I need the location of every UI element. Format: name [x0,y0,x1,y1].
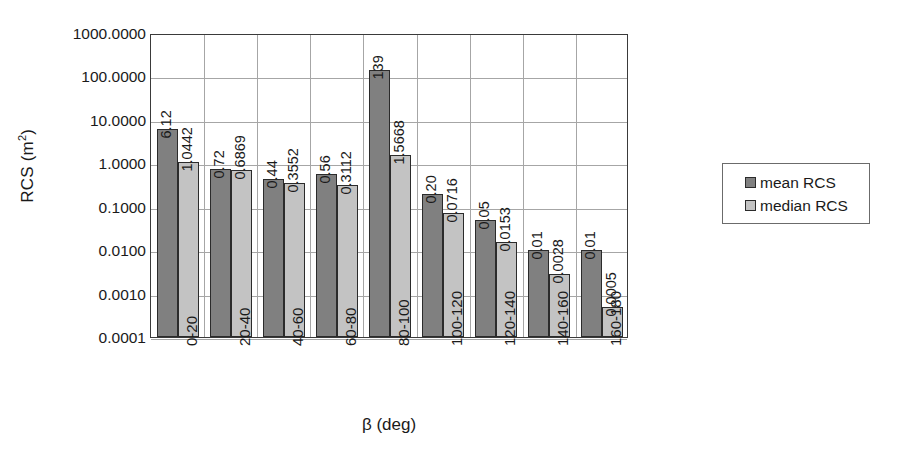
bar-mean [528,250,549,337]
bar-value-label: 0.0153 [498,207,513,251]
x-axis-tick-label: 80-100 [396,299,411,346]
bar-value-label: 0.01 [530,231,545,259]
y-axis-tick-label: 1.0000 [42,157,146,173]
y-axis-tick-label: 0.0100 [42,243,146,259]
bar-value-label: 1.0442 [179,128,194,172]
y-axis-tick-label: 1000.0000 [42,26,146,42]
y-axis-title-close: ) [18,129,37,135]
bar-group [204,35,257,337]
bar-group [151,35,204,337]
bar-value-label: 0.0716 [445,178,460,222]
bar-value-label: 0.05 [477,201,492,229]
y-axis-tick-label: 100.0000 [42,70,146,86]
bar-mean [210,169,231,337]
y-axis-tick-label: 0.0010 [42,287,146,303]
legend-item-mean-rcs: mean RCS [745,171,869,194]
chart-legend: mean RCS median RCS [722,163,870,224]
x-axis-tick-label: 140-160 [555,291,570,346]
bar-mean [263,179,284,337]
x-axis-tick-label: 60-80 [343,308,358,346]
bar-value-label: 0.01 [583,231,598,259]
y-axis-tick-label: 10.0000 [42,113,146,129]
x-axis-tick-label: 40-60 [290,308,305,346]
bar-value-label: 0.72 [211,151,226,179]
x-axis-tick-label: 100-120 [449,291,464,346]
bar-mean [369,70,390,337]
y-axis-tick-label: 0.1000 [42,200,146,216]
legend-swatch-median-icon [745,200,756,211]
legend-label-mean: mean RCS [760,174,836,192]
bar-group [363,35,416,337]
y-axis-title: RCS (m2) [16,106,38,226]
legend-item-median-rcs: median RCS [745,194,869,217]
x-axis-tick-label: 0-20 [184,316,199,346]
bar-value-label: 0.3112 [338,152,353,195]
bar-mean [422,194,443,337]
bar-value-label: 0.44 [264,160,279,188]
bar-value-label: 0.20 [424,175,439,203]
x-axis-tick-label: 120-140 [502,291,517,346]
y-axis-title-text: RCS (m [18,141,37,203]
y-axis-tick-labels: 1000.0000100.000010.00001.00000.10000.01… [42,0,146,457]
bar-value-label: 1.5668 [392,120,407,164]
bar-value-label: 0.56 [317,155,332,183]
bar-mean [316,174,337,337]
bar-median [178,162,199,337]
x-axis-title: β (deg) [150,415,628,435]
bar-mean [475,220,496,337]
bar-value-label: 6.12 [158,110,173,138]
bar-value-label: 0.6869 [232,136,247,180]
x-axis-tick-label: 160-180 [608,291,623,346]
bar-value-label: 0.0028 [551,239,566,283]
y-axis-title-exponent: 2 [16,135,28,141]
bar-mean [581,250,602,337]
legend-swatch-mean-icon [745,177,756,188]
bar-value-label: 139 [371,56,386,80]
bar-value-label: 0.3552 [285,148,300,192]
legend-label-median: median RCS [760,197,848,215]
rcs-bar-chart-figure: RCS (m2) 1000.0000100.000010.00001.00000… [0,0,922,457]
y-axis-tick-label: 0.0001 [42,330,146,346]
bar-mean [157,129,178,337]
x-axis-tick-label: 20-40 [237,308,252,346]
